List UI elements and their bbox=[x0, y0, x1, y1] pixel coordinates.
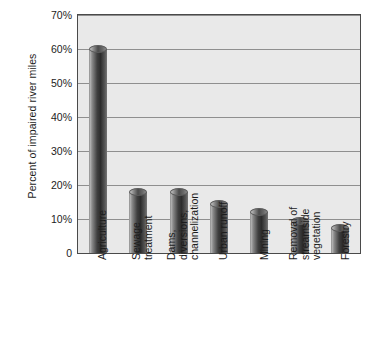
x-axis-tick-label: Mining bbox=[259, 229, 271, 260]
bar-slot bbox=[325, 15, 355, 253]
y-axis-tick-label: 30% bbox=[51, 145, 72, 157]
x-axis-tick-label: Agriculture bbox=[97, 210, 109, 260]
x-axis-tick-label: Forestry bbox=[340, 221, 352, 260]
y-axis-tick-label: 10% bbox=[51, 213, 72, 225]
y-axis-tick-label: 40% bbox=[51, 111, 72, 123]
x-axis-label-slot: Forestry bbox=[326, 256, 356, 342]
x-axis-tick-label: Removal ofstreamsidevegetation bbox=[288, 207, 323, 260]
y-axis-tick-label: 0 bbox=[66, 247, 72, 259]
x-axis-label-slot: Sewagetreatment bbox=[123, 256, 153, 342]
y-axis-tick-labels: 010%20%30%40%50%60%70% bbox=[28, 14, 72, 254]
y-axis-tick-label: 20% bbox=[51, 179, 72, 191]
x-axis-label-slot: Removal ofstreamsidevegetation bbox=[285, 256, 315, 342]
y-axis-tick-label: 60% bbox=[51, 43, 72, 55]
x-axis-tick-label: Dams,diversions,channelization bbox=[166, 193, 201, 260]
x-axis-tick-label: Urban runoff bbox=[218, 202, 230, 260]
bar-chart: Percent of impaired river miles 010%20%3… bbox=[0, 0, 373, 343]
bar-cap bbox=[129, 188, 147, 196]
x-axis-label-slot: Agriculture bbox=[82, 256, 112, 342]
y-axis-tick-label: 50% bbox=[51, 77, 72, 89]
y-axis-tick-label: 70% bbox=[51, 9, 72, 21]
x-axis-label-slot: Mining bbox=[245, 256, 275, 342]
x-axis-tick-label: Sewagetreatment bbox=[131, 216, 154, 260]
x-axis-label-slot: Dams,diversions,channelization bbox=[163, 256, 193, 342]
x-axis-label-slot: Urban runoff bbox=[204, 256, 234, 342]
bar-cap bbox=[250, 208, 268, 216]
bar-slot bbox=[244, 15, 274, 253]
x-axis-category-labels: AgricultureSewagetreatmentDams,diversion… bbox=[77, 256, 361, 342]
bar-cap bbox=[89, 45, 107, 53]
